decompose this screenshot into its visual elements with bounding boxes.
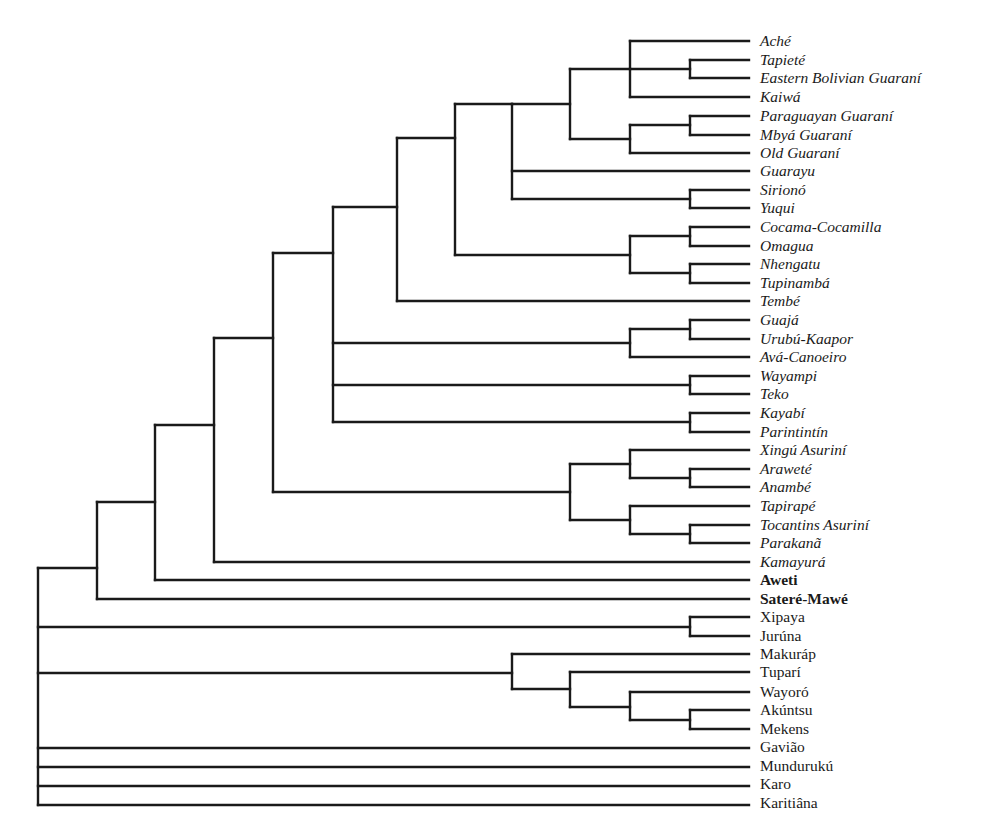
leaf-label: Jurúna xyxy=(760,627,801,644)
leaf-label: Gavião xyxy=(760,738,805,755)
phylogenetic-tree: AchéTapietéEastern Bolivian GuaraníKaiwá… xyxy=(0,0,1003,839)
leaf-label: Karo xyxy=(760,775,791,792)
leaf-label: Sirionó xyxy=(760,181,806,198)
leaf-label: Karitiâna xyxy=(760,794,818,811)
leaf-label: Akúntsu xyxy=(760,701,813,718)
leaf-label: Eastern Bolivian Guaraní xyxy=(759,69,923,86)
leaf-label: Omagua xyxy=(760,237,814,254)
leaf-label: Avá-Canoeiro xyxy=(759,348,847,365)
leaf-label: Makuráp xyxy=(760,645,816,662)
leaf-label: Xingú Asuriní xyxy=(759,441,848,458)
leaf-label: Wayampi xyxy=(760,367,817,384)
leaf-label: Tuparí xyxy=(760,663,801,680)
leaf-label: Yuqui xyxy=(760,199,795,216)
tree-branches xyxy=(38,41,749,805)
leaf-label: Parintintín xyxy=(759,423,828,440)
leaf-label: Urubú-Kaapor xyxy=(760,330,854,347)
leaf-label: Kamayurá xyxy=(759,553,826,570)
leaf-label: Aché xyxy=(759,32,792,49)
leaf-label: Tapirapé xyxy=(760,497,817,514)
leaf-label: Wayoró xyxy=(760,683,809,700)
leaf-label: Tapieté xyxy=(760,51,806,68)
leaf-label: Araweté xyxy=(759,460,813,477)
leaf-label: Parakanã xyxy=(759,534,821,551)
leaf-label: Mekens xyxy=(760,720,809,737)
leaf-label: Tocantins Asuriní xyxy=(760,516,871,533)
leaf-label: Old Guaraní xyxy=(760,144,841,161)
leaf-label: Guarayu xyxy=(760,162,815,179)
leaf-label: Kaiwá xyxy=(759,88,801,105)
leaf-label: Tembé xyxy=(760,292,801,309)
leaf-label: Paraguayan Guaraní xyxy=(759,107,895,124)
leaf-label: Anambé xyxy=(759,478,812,495)
leaf-label: Kayabí xyxy=(759,404,806,421)
leaf-label: Mundurukú xyxy=(760,757,833,774)
leaf-label: Tupinambá xyxy=(760,274,830,291)
leaf-label: Guajá xyxy=(760,311,799,328)
leaf-label: Mbyá Guaraní xyxy=(759,126,853,143)
leaf-label: Sateré-Mawé xyxy=(760,590,848,607)
leaf-labels: AchéTapietéEastern Bolivian GuaraníKaiwá… xyxy=(759,32,923,811)
leaf-label: Aweti xyxy=(760,571,798,588)
leaf-label: Xipaya xyxy=(760,608,805,625)
leaf-label: Nhengatu xyxy=(759,255,821,272)
leaf-label: Cocama-Cocamilla xyxy=(760,218,882,235)
leaf-label: Teko xyxy=(760,385,789,402)
